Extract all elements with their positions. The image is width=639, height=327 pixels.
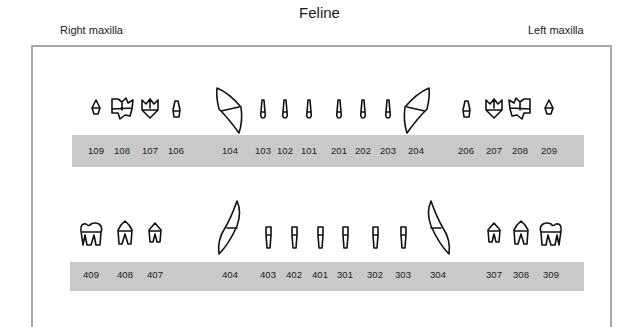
tooth-number-label: 204 bbox=[408, 145, 424, 156]
tooth-number-label: 301 bbox=[337, 269, 353, 280]
tooth-104-icon[interactable] bbox=[215, 87, 245, 135]
tooth-number-label: 407 bbox=[147, 269, 163, 280]
tooth-number-label: 206 bbox=[458, 145, 474, 156]
tooth-number-label: 103 bbox=[255, 145, 271, 156]
tooth-number-label: 202 bbox=[355, 145, 371, 156]
tooth-108-icon[interactable] bbox=[110, 97, 134, 121]
tooth-number-label: 101 bbox=[301, 145, 317, 156]
tooth-403-icon[interactable] bbox=[264, 225, 273, 249]
tooth-number-label: 201 bbox=[331, 145, 347, 156]
tooth-307-icon[interactable] bbox=[486, 222, 502, 244]
chart-title: Feline bbox=[0, 4, 639, 21]
tooth-202-icon[interactable] bbox=[359, 99, 367, 121]
tooth-301-icon[interactable] bbox=[341, 225, 350, 249]
tooth-309-icon[interactable] bbox=[539, 221, 563, 247]
tooth-number-label: 208 bbox=[512, 145, 528, 156]
tooth-number-label: 302 bbox=[367, 269, 383, 280]
tooth-201-icon[interactable] bbox=[335, 99, 343, 121]
tooth-109-icon[interactable] bbox=[91, 99, 101, 115]
tooth-401-icon[interactable] bbox=[316, 225, 325, 249]
tooth-number-label: 104 bbox=[222, 145, 238, 156]
tooth-number-label: 402 bbox=[286, 269, 302, 280]
tooth-101-icon[interactable] bbox=[305, 99, 313, 121]
tooth-409-icon[interactable] bbox=[79, 221, 103, 247]
left-maxilla-label: Left maxilla bbox=[528, 24, 584, 36]
tooth-404-icon[interactable] bbox=[217, 200, 243, 256]
tooth-number-label: 106 bbox=[168, 145, 184, 156]
tooth-number-label: 409 bbox=[83, 269, 99, 280]
tooth-103-icon[interactable] bbox=[259, 99, 267, 121]
tooth-207-icon[interactable] bbox=[484, 98, 504, 120]
tooth-number-label: 109 bbox=[88, 145, 104, 156]
tooth-number-label: 307 bbox=[486, 269, 502, 280]
tooth-303-icon[interactable] bbox=[399, 225, 408, 249]
tooth-number-label: 308 bbox=[513, 269, 529, 280]
tooth-308-icon[interactable] bbox=[512, 220, 530, 246]
tooth-206-icon[interactable] bbox=[462, 100, 471, 120]
tooth-number-label: 404 bbox=[222, 269, 238, 280]
tooth-number-label: 303 bbox=[395, 269, 411, 280]
tooth-number-label: 403 bbox=[260, 269, 276, 280]
tooth-number-label: 107 bbox=[142, 145, 158, 156]
tooth-106-icon[interactable] bbox=[172, 100, 181, 120]
tooth-203-icon[interactable] bbox=[384, 99, 392, 121]
tooth-208-icon[interactable] bbox=[508, 97, 532, 121]
tooth-107-icon[interactable] bbox=[140, 98, 160, 120]
tooth-number-label: 309 bbox=[543, 269, 559, 280]
tooth-number-label: 304 bbox=[430, 269, 446, 280]
tooth-209-icon[interactable] bbox=[544, 99, 554, 115]
tooth-number-label: 408 bbox=[117, 269, 133, 280]
tooth-number-label: 102 bbox=[277, 145, 293, 156]
tooth-number-label: 108 bbox=[114, 145, 130, 156]
tooth-number-label: 209 bbox=[541, 145, 557, 156]
tooth-102-icon[interactable] bbox=[281, 99, 289, 121]
tooth-302-icon[interactable] bbox=[371, 225, 380, 249]
tooth-204-icon[interactable] bbox=[401, 87, 431, 135]
tooth-number-label: 207 bbox=[486, 145, 502, 156]
tooth-number-label: 203 bbox=[380, 145, 396, 156]
tooth-408-icon[interactable] bbox=[116, 220, 134, 246]
right-maxilla-label: Right maxilla bbox=[60, 24, 123, 36]
tooth-407-icon[interactable] bbox=[147, 222, 163, 244]
tooth-402-icon[interactable] bbox=[290, 225, 299, 249]
tooth-304-icon[interactable] bbox=[425, 200, 451, 256]
tooth-number-label: 401 bbox=[312, 269, 328, 280]
